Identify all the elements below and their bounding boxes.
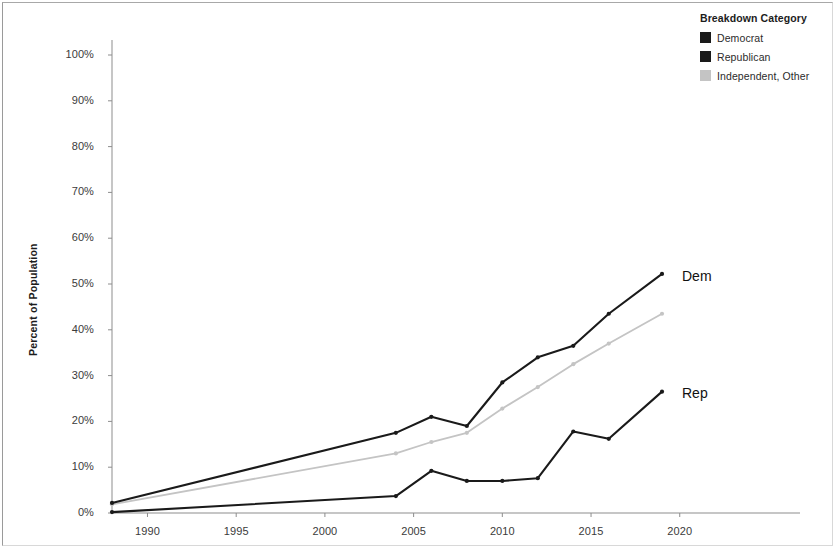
y-tick-label: 20%: [48, 414, 94, 426]
data-point: [571, 344, 575, 348]
data-point: [500, 479, 504, 483]
legend-swatch-icon: [700, 70, 711, 81]
data-point: [536, 355, 540, 359]
data-point: [571, 362, 575, 366]
x-tick-label: 2020: [650, 525, 710, 537]
y-tick-label: 90%: [48, 94, 94, 106]
x-tick-label: 1995: [206, 525, 266, 537]
data-point: [500, 380, 504, 384]
data-point: [571, 429, 575, 433]
y-tick-label: 60%: [48, 231, 94, 243]
series-republican: [110, 390, 664, 515]
legend-item[interactable]: Independent, Other: [700, 66, 832, 85]
legend-title: Breakdown Category: [700, 12, 832, 24]
series-line: [112, 392, 662, 512]
data-point: [607, 312, 611, 316]
y-tick-label: 70%: [48, 185, 94, 197]
series-independent-other: [110, 312, 664, 507]
data-point: [465, 431, 469, 435]
y-tick-label: 50%: [48, 277, 94, 289]
data-point: [110, 501, 114, 505]
legend-item[interactable]: Republican: [700, 47, 832, 66]
data-point: [607, 341, 611, 345]
data-point: [660, 390, 664, 394]
x-tick-label: 2010: [472, 525, 532, 537]
series-annotation-rep: Rep: [682, 385, 708, 401]
legend-items: DemocratRepublicanIndependent, Other: [700, 28, 832, 85]
legend-item[interactable]: Democrat: [700, 28, 832, 47]
series-democrat: [110, 272, 664, 505]
data-point: [465, 479, 469, 483]
y-tick-label: 0%: [48, 506, 94, 518]
data-point: [394, 431, 398, 435]
legend: Breakdown Category DemocratRepublicanInd…: [700, 12, 832, 85]
y-tick-label: 40%: [48, 323, 94, 335]
data-point: [660, 272, 664, 276]
data-point: [465, 424, 469, 428]
series-line: [112, 314, 662, 505]
data-point: [536, 385, 540, 389]
x-tick-label: 2000: [295, 525, 355, 537]
legend-swatch-icon: [700, 51, 711, 62]
y-tick-label: 80%: [48, 140, 94, 152]
data-point: [429, 415, 433, 419]
series-annotation-dem: Dem: [682, 268, 712, 284]
chart-screenshot: 0%10%20%30%40%50%60%70%80%90%100%1990199…: [0, 0, 835, 548]
legend-item-label: Democrat: [717, 32, 763, 44]
data-point: [429, 440, 433, 444]
data-point: [660, 312, 664, 316]
series-line: [112, 274, 662, 503]
y-tick-label: 100%: [48, 48, 94, 60]
x-tick-label: 2005: [384, 525, 444, 537]
legend-item-label: Independent, Other: [717, 70, 809, 82]
legend-swatch-icon: [700, 32, 711, 43]
data-point: [429, 469, 433, 473]
data-point: [110, 510, 114, 514]
data-point: [394, 451, 398, 455]
y-tick-label: 10%: [48, 460, 94, 472]
data-point: [536, 476, 540, 480]
y-axis-title: Percent of Population: [27, 243, 39, 356]
y-axis-title-wrap: Percent of Population: [13, 220, 29, 360]
data-point: [607, 437, 611, 441]
legend-item-label: Republican: [717, 51, 771, 63]
x-tick-label: 1990: [117, 525, 177, 537]
data-point: [394, 494, 398, 498]
x-tick-label: 2015: [561, 525, 621, 537]
y-tick-label: 30%: [48, 369, 94, 381]
data-point: [500, 406, 504, 410]
